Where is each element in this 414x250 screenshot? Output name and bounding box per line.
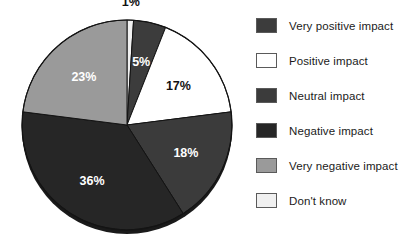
pie-slice-value-label: 1% — [122, 0, 140, 9]
legend-swatch-neutral-impact — [256, 88, 277, 103]
legend-item-very-positive-impact: Very positive impact — [250, 8, 414, 43]
legend-label-neutral-impact: Neutral impact — [289, 90, 365, 102]
legend-item-negative-impact: Negative impact — [250, 113, 414, 148]
pie-slice-value-label: 17% — [166, 79, 191, 93]
legend-label-dont-know: Don't know — [289, 195, 347, 207]
pie-slice-value-label: 36% — [80, 174, 105, 188]
pie-slice-value-label: 5% — [132, 55, 150, 69]
legend-swatch-positive-impact — [256, 53, 277, 68]
legend-item-neutral-impact: Neutral impact — [250, 78, 414, 113]
legend-label-very-positive-impact: Very positive impact — [289, 20, 393, 32]
legend-label-positive-impact: Positive impact — [289, 55, 368, 67]
pie-chart-figure: 1%5%17%18%36%23% Very positive impact Po… — [0, 0, 414, 250]
legend-label-very-negative-impact: Very negative impact — [289, 160, 398, 172]
legend-swatch-negative-impact — [256, 123, 277, 138]
legend-swatch-very-negative-impact — [256, 158, 277, 173]
legend-label-negative-impact: Negative impact — [289, 125, 373, 137]
legend-swatch-very-positive-impact — [256, 18, 277, 33]
legend-swatch-dont-know — [256, 193, 277, 208]
pie-slice-value-label: 23% — [71, 70, 96, 84]
pie-plot-area: 1%5%17%18%36%23% — [0, 0, 250, 250]
chart-legend: Very positive impact Positive impact Neu… — [250, 0, 414, 250]
pie-slice-value-label: 18% — [173, 146, 198, 160]
legend-item-dont-know: Don't know — [250, 183, 414, 218]
legend-item-very-negative-impact: Very negative impact — [250, 148, 414, 183]
legend-item-positive-impact: Positive impact — [250, 43, 414, 78]
pie-svg: 1%5%17%18%36%23% — [0, 0, 250, 250]
